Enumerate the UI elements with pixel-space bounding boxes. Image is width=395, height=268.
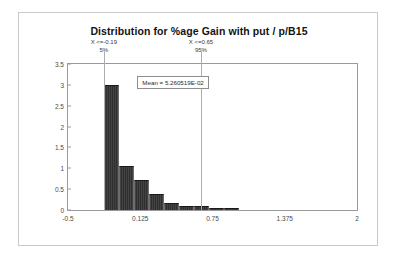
histogram-bar <box>119 166 134 210</box>
histogram-bar <box>149 194 164 210</box>
percentile-pct-label: 95% <box>189 46 213 54</box>
y-axis-tick-mark <box>68 105 71 106</box>
screenshot-root: Distribution for %age Gain with put / p/… <box>0 0 395 268</box>
y-axis-tick-label: 3 <box>60 81 68 88</box>
y-axis-tick-label: 0.5 <box>55 186 68 193</box>
percentile-annotation: X <=-0.195% <box>91 38 117 54</box>
y-axis-tick-mark <box>68 147 71 148</box>
y-axis-tick-mark <box>68 126 71 127</box>
percentile-x-label: X <=-0.19 <box>91 38 117 46</box>
mean-callout: Mean = 5.260519E-02 <box>137 76 208 89</box>
plot-area: 00.511.522.533.5 -0.50.1250.751.3752 <box>67 63 358 211</box>
y-axis-tick-label: 1 <box>60 165 68 172</box>
x-axis-tick-label: -0.5 <box>62 210 73 222</box>
x-axis-tick-label: 2 <box>355 210 359 222</box>
y-axis-tick-label: 2 <box>60 123 68 130</box>
percentile-annotation: X <=0.6595% <box>189 38 213 54</box>
y-axis-tick-mark <box>68 189 71 190</box>
histogram-bar <box>134 180 149 210</box>
x-axis-tick-label: 0.75 <box>206 210 219 222</box>
y-axis-tick-mark <box>68 64 71 65</box>
y-axis-tick-label: 1.5 <box>55 144 68 151</box>
y-axis-tick-label: 3.5 <box>55 61 68 68</box>
histogram-bar <box>224 208 239 210</box>
chart-figure-card: Distribution for %age Gain with put / p/… <box>18 12 378 246</box>
plot-inner: 00.511.522.533.5 -0.50.1250.751.3752 <box>68 64 357 210</box>
histogram-bar <box>104 85 119 210</box>
percentile-x-label: X <=0.65 <box>189 38 213 46</box>
x-axis-tick-label: 1.375 <box>277 210 293 222</box>
histogram-bars <box>68 64 357 210</box>
chart-title: Distribution for %age Gain with put / p/… <box>19 25 379 37</box>
percentile-pct-label: 5% <box>91 46 117 54</box>
histogram-bar <box>164 203 179 210</box>
y-axis-tick-label: 2.5 <box>55 102 68 109</box>
y-axis-tick-mark <box>68 84 71 85</box>
y-axis-tick-mark <box>68 168 71 169</box>
x-axis-tick-label: 0.125 <box>132 210 148 222</box>
histogram-bar <box>179 206 194 210</box>
percentile-delimiter-line <box>104 52 105 210</box>
